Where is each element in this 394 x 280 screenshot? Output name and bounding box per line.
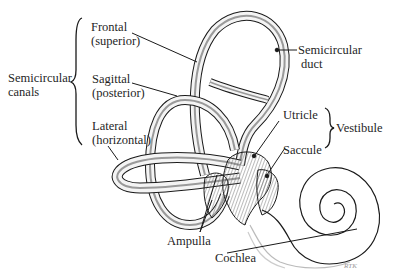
lateral-canal-label: Lateral (horizontal) [92,119,151,147]
leader-lateral [108,146,118,160]
frontal-canal [195,16,285,175]
lateral-label-line2: (horizontal) [92,133,151,147]
semicircular-canals-label: Semicircular canals [8,71,72,99]
utricle-label: Utricle [283,108,318,122]
frontal-canal-label: Frontal (superior) [91,20,140,48]
frontal-label-line2: (superior) [91,34,140,48]
frontal-label-line1: Frontal [91,20,140,34]
vestibule-label: Vestibule [336,121,383,135]
vestibule-brace [325,108,334,148]
semicircular-duct-label-line2: duct [298,57,362,71]
sagittal-label-line2: (posterior) [92,86,145,100]
saccule-label: Saccule [283,143,322,157]
semicircular-duct-label-line1: Semicircular [298,43,362,57]
semicircular-canals-brace [71,18,82,145]
lateral-label-line1: Lateral [92,119,151,133]
sagittal-label-line1: Sagittal [92,72,145,86]
inner-ear-diagram: Semicircular canals Frontal (superior) S… [0,0,394,280]
leader-cochlea [227,229,357,253]
semicircular-duct-label: Semicircular duct [298,43,362,71]
leader-frontal [132,33,197,62]
sagittal-canal-label: Sagittal (posterior) [92,72,145,100]
ampulla-label: Ampulla [167,234,211,248]
artist-signature: RTK [344,259,357,273]
cochlea-label: Cochlea [215,251,256,265]
semicircular-canals-label-line2: canals [8,85,72,99]
semicircular-canals-label-line1: Semicircular [8,71,72,85]
